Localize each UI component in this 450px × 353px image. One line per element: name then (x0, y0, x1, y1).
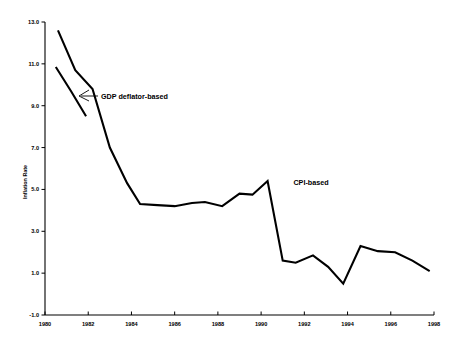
x-tick-label: 1990 (255, 321, 267, 327)
cpi-annotation-label: CPI-based (293, 178, 328, 187)
x-tick-label: 1998 (428, 321, 440, 327)
inflation-rate-chart: -1.01.03.05.07.09.011.013.0 198019821984… (0, 0, 450, 353)
y-tick-label: 13.0 (28, 19, 39, 25)
y-tick-label: 7.0 (31, 145, 39, 151)
y-tick-label: -1.0 (29, 312, 39, 318)
chart-canvas: -1.01.03.05.07.09.011.013.0 198019821984… (0, 0, 450, 353)
y-tick-label: 11.0 (28, 61, 39, 67)
cpi-based-line (58, 30, 430, 283)
x-tick-label: 1986 (168, 321, 180, 327)
y-axis-title: Inflation Rate (22, 165, 28, 199)
gdp-deflator-annotation-label: GDP deflator-based (101, 92, 168, 101)
y-tick-label: 1.0 (31, 270, 39, 276)
x-tick-label: 1996 (385, 321, 397, 327)
x-tick-label: 1982 (82, 321, 94, 327)
series-group (56, 30, 430, 283)
x-tick-label: 1992 (298, 321, 310, 327)
x-axis-ticks: 1980198219841986198819901992199419961998 (39, 312, 440, 328)
x-tick-label: 1988 (212, 321, 224, 327)
axes-group (45, 22, 434, 315)
x-tick-label: 1994 (341, 321, 354, 327)
x-tick-label: 1984 (125, 321, 138, 327)
annotation-arrowhead-icon (79, 90, 89, 101)
y-axis-ticks: -1.01.03.05.07.09.011.013.0 (28, 19, 45, 318)
y-tick-label: 3.0 (31, 228, 39, 234)
x-tick-label: 1980 (39, 321, 51, 327)
y-tick-label: 5.0 (31, 186, 39, 192)
y-tick-label: 9.0 (31, 103, 39, 109)
gdp-deflator-based-line (56, 67, 86, 116)
